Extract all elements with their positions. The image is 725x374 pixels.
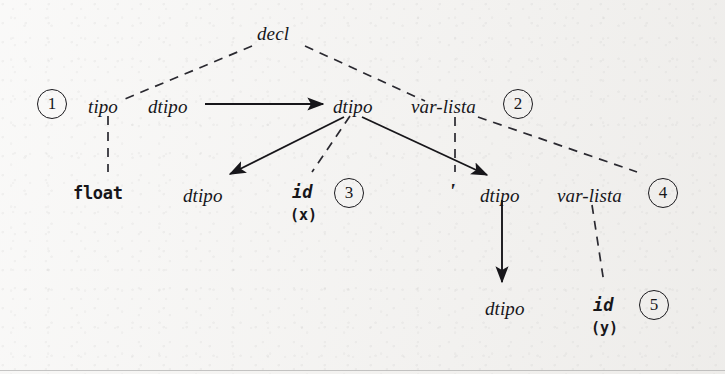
arrow-dtipo-b-to-dtipo-d	[362, 117, 487, 175]
step-marker-4: 4	[648, 178, 678, 208]
node-id-x-terminal: id	[292, 184, 312, 201]
edge-varlista2-to-id-y	[592, 205, 604, 283]
node-float-terminal: float	[73, 185, 123, 202]
node-decl: decl	[257, 24, 289, 43]
arrow-dtipo-b-to-dtipo-c	[230, 117, 344, 174]
bottom-rule	[0, 370, 725, 371]
node-id-x-lexeme: (x)	[290, 208, 317, 223]
node-var-lista-2: var-lista	[557, 186, 622, 205]
node-var-lista-1: var-lista	[411, 97, 476, 116]
node-tipo: tipo	[88, 97, 118, 116]
node-dtipo-d: dtipo	[480, 186, 520, 205]
edge-decl-to-tipo	[120, 46, 252, 101]
node-dtipo-e: dtipo	[485, 299, 525, 318]
diagram-canvas: decl tipo dtipo dtipo var-lista float dt…	[0, 0, 725, 374]
node-id-y-terminal: id	[593, 297, 613, 314]
node-dtipo-c: dtipo	[183, 186, 223, 205]
step-marker-3: 3	[334, 178, 364, 208]
node-id-y-lexeme: (y)	[591, 321, 618, 336]
step-marker-5: 5	[639, 290, 669, 320]
edge-decl-to-varlista1	[305, 46, 425, 101]
step-marker-2: 2	[503, 89, 533, 119]
edge-varlista1-to-varlista2	[478, 117, 637, 172]
step-marker-1: 1	[37, 89, 67, 119]
node-dtipo-b: dtipo	[333, 97, 373, 116]
node-comma-terminal: '	[449, 180, 455, 202]
node-dtipo-a: dtipo	[148, 97, 188, 116]
